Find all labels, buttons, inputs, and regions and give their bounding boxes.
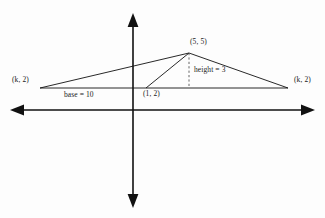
y-axis-down-arrow-icon — [128, 194, 139, 208]
x-axis — [10, 105, 315, 116]
label-inner-point: (1, 2) — [143, 90, 160, 98]
triangle-outline — [40, 53, 288, 88]
label-apex: (5, 5) — [190, 38, 207, 46]
geometry-figure: (k, 2) (k, 2) (5, 5) (1, 2) base = 10 he… — [0, 0, 325, 218]
y-axis-up-arrow-icon — [128, 13, 139, 27]
figure-canvas — [0, 0, 325, 218]
label-vertex-left: (k, 2) — [12, 76, 29, 84]
x-axis-left-arrow-icon — [10, 105, 24, 116]
outer-triangle — [40, 53, 288, 88]
x-axis-right-arrow-icon — [301, 105, 315, 116]
label-base: base = 10 — [64, 91, 94, 99]
label-vertex-right: (k, 2) — [294, 76, 311, 84]
label-height: height = 3 — [194, 66, 225, 74]
